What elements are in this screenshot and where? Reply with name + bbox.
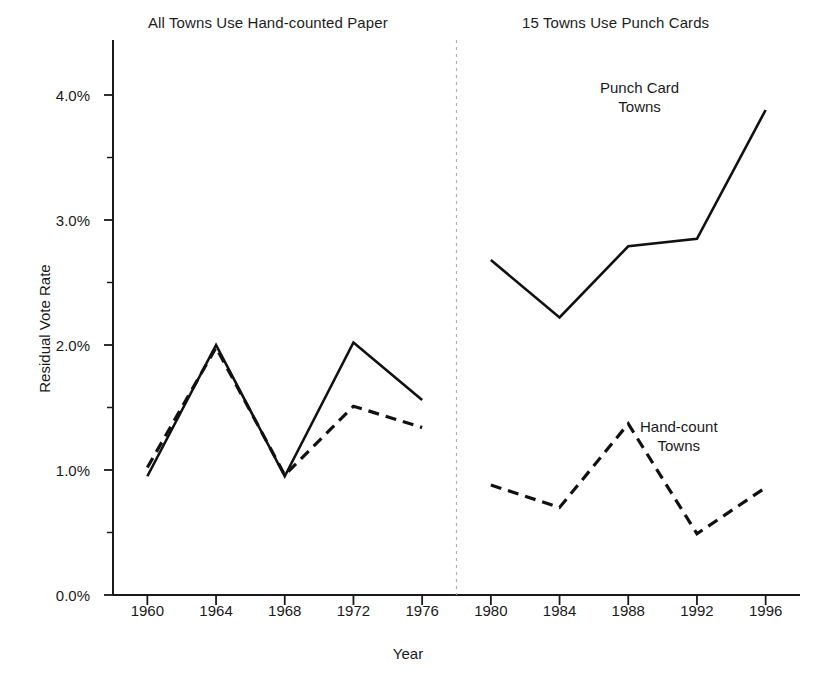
x-tick-label: 1996 — [736, 602, 796, 619]
y-tick-label: 4.0% — [20, 87, 90, 104]
axis-layer — [104, 40, 800, 605]
x-tick-label: 1992 — [667, 602, 727, 619]
plot-canvas — [0, 0, 816, 681]
series-line-punch-card-towns-seg1 — [491, 110, 766, 318]
x-tick-label: 1980 — [461, 602, 521, 619]
x-tick-label: 1984 — [530, 602, 590, 619]
y-tick-label: 2.0% — [20, 337, 90, 354]
chart-figure: All Towns Use Hand-counted Paper 15 Town… — [0, 0, 816, 681]
x-tick-label: 1988 — [598, 602, 658, 619]
x-tick-label: 1960 — [117, 602, 177, 619]
x-tick-label: 1976 — [392, 602, 452, 619]
y-tick-label: 1.0% — [20, 462, 90, 479]
x-tick-label: 1972 — [323, 602, 383, 619]
x-tick-label: 1964 — [186, 602, 246, 619]
series-line-hand-count-towns-seg1 — [491, 424, 766, 534]
y-tick-label: 3.0% — [20, 212, 90, 229]
series-line-punch-card-towns-seg0 — [147, 343, 422, 477]
x-tick-label: 1968 — [255, 602, 315, 619]
y-tick-label: 0.0% — [20, 587, 90, 604]
